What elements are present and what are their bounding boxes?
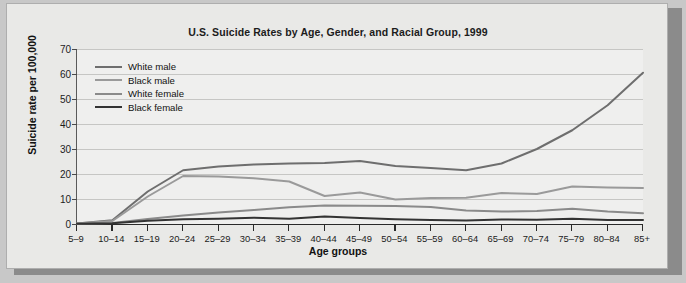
x-tick-label: 35–39: [275, 233, 301, 244]
legend-item[interactable]: White female: [95, 87, 184, 101]
card-shadow-right: [668, 8, 682, 274]
legend-label: White female: [128, 88, 184, 99]
x-tick-label: 45–49: [346, 233, 372, 244]
x-tick: [111, 225, 112, 231]
y-tick-label: 30: [41, 144, 71, 155]
x-tick-label: 20–24: [169, 233, 195, 244]
x-tick: [182, 225, 183, 231]
legend-item[interactable]: White male: [95, 60, 184, 74]
chart-title: U.S. Suicide Rates by Age, Gender, and R…: [7, 26, 669, 38]
x-tick-label: 50–54: [381, 233, 407, 244]
y-tick-label: 40: [41, 119, 71, 130]
y-axis-labels: 010203040506070: [39, 49, 71, 224]
legend-label: Black female: [128, 102, 183, 113]
x-tick-label: 65–69: [487, 233, 513, 244]
legend-swatch: [95, 66, 122, 68]
x-tick-label: 40–44: [311, 233, 337, 244]
chart-card: U.S. Suicide Rates by Age, Gender, and R…: [6, 3, 668, 269]
legend-swatch: [95, 79, 122, 81]
x-tick: [147, 225, 148, 231]
x-tick-label: 70–74: [523, 233, 549, 244]
x-tick: [642, 225, 643, 231]
x-tick: [324, 225, 325, 231]
x-tick: [218, 225, 219, 231]
x-tick-label: 60–64: [452, 233, 478, 244]
x-tick: [536, 225, 537, 231]
x-tick-label: 75–79: [558, 233, 584, 244]
x-tick-label: 10–14: [98, 233, 124, 244]
legend-label: Black male: [128, 75, 175, 86]
x-tick: [430, 225, 431, 231]
x-tick: [253, 225, 254, 231]
x-tick-label: 15–19: [134, 233, 160, 244]
page-root: U.S. Suicide Rates by Age, Gender, and R…: [0, 0, 686, 283]
x-tick: [76, 225, 77, 231]
x-tick: [465, 225, 466, 231]
x-tick-label: 85+: [634, 233, 650, 244]
x-axis-title: Age groups: [7, 245, 669, 257]
y-tick-label: 50: [41, 94, 71, 105]
x-tick: [501, 225, 502, 231]
legend-item[interactable]: Black female: [95, 101, 184, 115]
x-tick: [288, 225, 289, 231]
y-axis-title: Suicide rate per 100,000: [26, 8, 38, 183]
x-tick: [359, 225, 360, 231]
legend-swatch: [95, 106, 122, 108]
x-tick-label: 5–9: [68, 233, 84, 244]
legend-label: White male: [128, 61, 176, 72]
x-tick-label: 30–34: [240, 233, 266, 244]
legend-item[interactable]: Black male: [95, 74, 184, 88]
y-tick-label: 10: [41, 194, 71, 205]
x-tick-label: 55–59: [417, 233, 443, 244]
y-tick-label: 60: [41, 69, 71, 80]
y-tick-label: 20: [41, 169, 71, 180]
chart-legend: White maleBlack maleWhite femaleBlack fe…: [95, 60, 184, 114]
y-tick-label: 0: [41, 219, 71, 230]
x-tick-label: 25–29: [204, 233, 230, 244]
x-tick: [394, 225, 395, 231]
x-tick: [607, 225, 608, 231]
legend-swatch: [95, 93, 122, 95]
x-tick: [571, 225, 572, 231]
x-tick-label: 80–84: [594, 233, 620, 244]
y-tick-label: 70: [41, 44, 71, 55]
